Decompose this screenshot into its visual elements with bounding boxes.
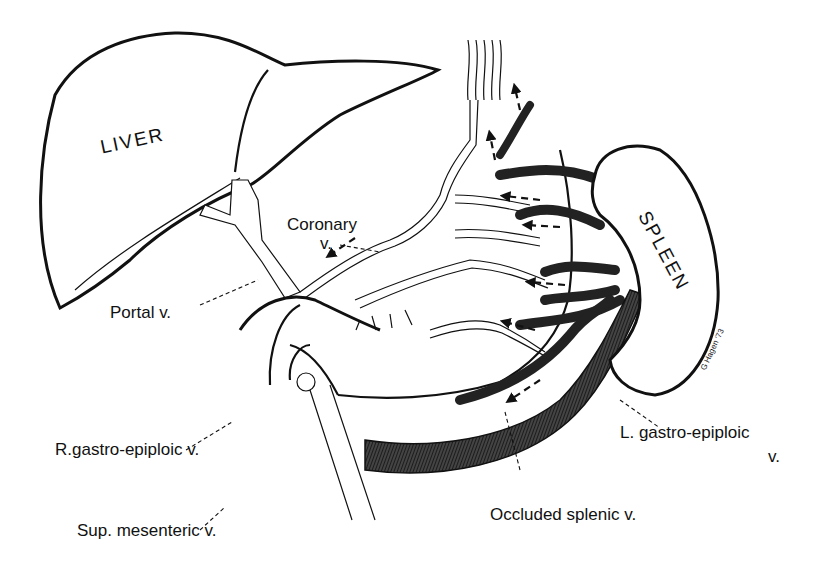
superior-mesenteric-vein xyxy=(297,373,375,520)
r-gastro-epiploic-label: R.gastro-epiploic v. xyxy=(55,440,199,460)
portal-vein-label: Portal v. xyxy=(110,303,171,323)
l-gastro-epiploic-label-line1: L. gastro-epiploic xyxy=(620,423,749,443)
occluded-splenic-label: Occluded splenic v. xyxy=(490,505,636,525)
coronary-vein-label-line2: v. xyxy=(320,234,332,254)
stomach xyxy=(240,150,572,398)
anatomy-diagram xyxy=(0,0,824,570)
sup-mesenteric-label: Sup. mesenteric v. xyxy=(77,521,217,541)
l-gastro-epiploic-label-line2: v. xyxy=(768,447,780,467)
coronary-vein-label-line1: Coronary xyxy=(287,215,357,235)
short-gastric-veins xyxy=(468,40,502,100)
liver xyxy=(41,33,438,308)
